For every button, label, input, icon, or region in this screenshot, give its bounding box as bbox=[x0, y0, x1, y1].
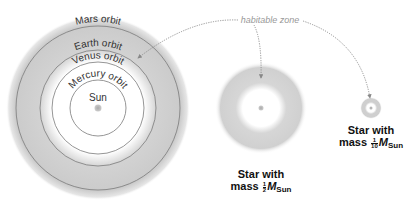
mass-symbol: M bbox=[267, 180, 276, 192]
tenth-mass-star-caption: Star with mass 110MSun bbox=[331, 124, 406, 152]
leader-to-tenth-mass-zone bbox=[303, 21, 370, 98]
sun-label: Sun bbox=[89, 92, 107, 103]
tenth-mass-star-system bbox=[360, 97, 382, 119]
half-mass-star-system bbox=[215, 62, 307, 154]
fraction: 110 bbox=[371, 138, 378, 149]
caption-prefix: mass bbox=[231, 180, 259, 192]
mass-subscript: Sun bbox=[388, 141, 403, 150]
fraction: 12 bbox=[263, 182, 266, 193]
half-mass-star-caption: Star with mass 12MSun bbox=[221, 168, 301, 196]
caption-prefix: mass bbox=[339, 136, 367, 148]
tenth-mass-star-icon bbox=[370, 107, 373, 110]
half-mass-star-icon bbox=[259, 106, 264, 111]
sun-icon bbox=[95, 105, 102, 112]
diagram-canvas: Mars orbit Earth orbit Venus orbit Mercu… bbox=[0, 0, 406, 214]
mass-symbol: M bbox=[379, 136, 388, 148]
mass-subscript: Sun bbox=[276, 185, 291, 194]
fraction-denominator: 10 bbox=[371, 144, 378, 149]
habitable-zone-label: habitable zone bbox=[241, 15, 300, 25]
caption-line1: Star with bbox=[221, 168, 301, 180]
caption-line1: Star with bbox=[331, 124, 406, 136]
fraction-denominator: 2 bbox=[263, 188, 266, 193]
